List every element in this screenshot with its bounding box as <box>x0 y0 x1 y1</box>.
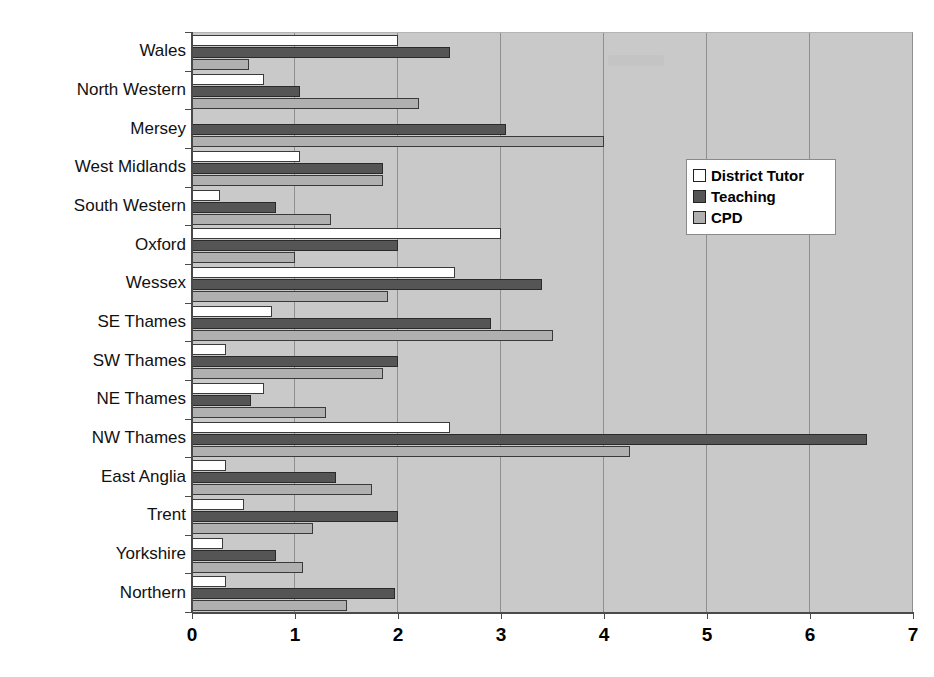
scan-artifact <box>608 55 664 66</box>
bar <box>192 422 450 433</box>
bar <box>192 35 398 46</box>
y-axis-tick <box>185 419 192 420</box>
bar <box>192 484 372 495</box>
bar <box>192 576 226 587</box>
y-axis-line <box>191 32 193 613</box>
category-label: West Midlands <box>6 158 186 175</box>
x-axis-tick <box>192 612 193 619</box>
bar <box>192 344 226 355</box>
bar <box>192 175 383 186</box>
category-label: Wessex <box>6 274 186 291</box>
x-axis-line <box>192 612 914 614</box>
bar <box>192 538 223 549</box>
legend-swatch-district-tutor <box>693 169 706 182</box>
y-axis-tick <box>185 457 192 458</box>
bar <box>192 395 251 406</box>
bar-chart: WalesNorth WesternMerseyWest MidlandsSou… <box>0 0 934 677</box>
bar <box>192 383 264 394</box>
y-axis-tick <box>185 32 192 33</box>
y-axis-tick <box>185 71 192 72</box>
category-label: Trent <box>6 506 186 523</box>
legend-label-teaching: Teaching <box>711 188 776 205</box>
bar <box>192 214 331 225</box>
category-axis-labels: WalesNorth WesternMerseyWest MidlandsSou… <box>0 0 186 677</box>
category-label: Wales <box>6 42 186 59</box>
y-axis-tick <box>185 225 192 226</box>
bar <box>192 306 272 317</box>
y-axis-tick <box>185 187 192 188</box>
bar <box>192 163 383 174</box>
bar <box>192 356 398 367</box>
category-label: SW Thames <box>6 352 186 369</box>
bar <box>192 499 244 510</box>
bar <box>192 588 395 599</box>
bar <box>192 279 542 290</box>
legend-swatch-teaching <box>693 190 706 203</box>
x-axis-tick <box>913 612 914 619</box>
bar <box>192 600 347 611</box>
bar <box>192 74 264 85</box>
bar <box>192 368 383 379</box>
category-label: North Western <box>6 81 186 98</box>
category-label: NE Thames <box>6 390 186 407</box>
category-label: Northern <box>6 584 186 601</box>
bar <box>192 550 276 561</box>
category-label: Oxford <box>6 236 186 253</box>
bar <box>192 460 226 471</box>
y-axis-tick <box>185 535 192 536</box>
bar <box>192 434 867 445</box>
x-axis-tick-label: 5 <box>687 624 727 646</box>
category-label: East Anglia <box>6 468 186 485</box>
gridline <box>809 33 810 612</box>
bar <box>192 124 506 135</box>
x-axis-tick-label: 1 <box>275 624 315 646</box>
bar <box>192 318 491 329</box>
bar <box>192 228 501 239</box>
bar <box>192 240 398 251</box>
y-axis-tick <box>185 264 192 265</box>
legend-label-district-tutor: District Tutor <box>711 167 804 184</box>
x-axis-tick-label: 4 <box>584 624 624 646</box>
x-axis-tick <box>810 612 811 619</box>
x-axis-tick-label: 2 <box>378 624 418 646</box>
bar <box>192 446 630 457</box>
bar <box>192 151 300 162</box>
x-axis-tick <box>501 612 502 619</box>
x-axis-tick-label: 7 <box>893 624 933 646</box>
x-axis-tick <box>604 612 605 619</box>
category-label: Mersey <box>6 120 186 137</box>
bar <box>192 330 553 341</box>
x-axis-tick <box>398 612 399 619</box>
category-label: South Western <box>6 197 186 214</box>
bar <box>192 267 455 278</box>
plot-area <box>192 32 913 612</box>
y-axis-tick <box>185 573 192 574</box>
legend-label-cpd: CPD <box>711 209 743 226</box>
y-axis-tick <box>185 612 192 613</box>
bar <box>192 59 249 70</box>
y-axis-tick <box>185 496 192 497</box>
gridline <box>500 33 501 612</box>
bar <box>192 291 388 302</box>
legend: District Tutor Teaching CPD <box>686 159 836 235</box>
category-label: SE Thames <box>6 313 186 330</box>
bar <box>192 562 303 573</box>
y-axis-tick <box>185 303 192 304</box>
legend-item-teaching: Teaching <box>693 186 829 207</box>
x-axis-tick-label: 3 <box>481 624 521 646</box>
bar <box>192 190 220 201</box>
bar <box>192 252 295 263</box>
y-axis-tick <box>185 109 192 110</box>
bar <box>192 511 398 522</box>
x-axis-tick <box>707 612 708 619</box>
bar <box>192 472 336 483</box>
y-axis-tick <box>185 341 192 342</box>
x-axis-tick-label: 6 <box>790 624 830 646</box>
gridline <box>706 33 707 612</box>
x-axis-tick-label: 0 <box>172 624 212 646</box>
y-axis-tick <box>185 380 192 381</box>
legend-item-cpd: CPD <box>693 207 829 228</box>
x-axis-tick <box>295 612 296 619</box>
category-label: Yorkshire <box>6 545 186 562</box>
bar <box>192 47 450 58</box>
